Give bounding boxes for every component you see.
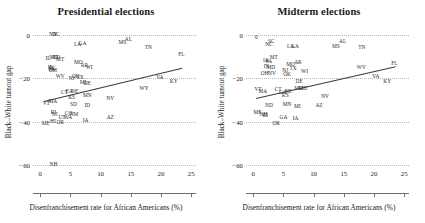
data-point-label: KY — [170, 79, 178, 84]
data-point-label: VA — [372, 74, 379, 79]
plot-area: 0−20−40−60NYDCLAGAALMSTNFLILMDNDMTMOARWI… — [33, 28, 196, 176]
data-point-label: WI — [86, 65, 93, 70]
data-point-label: MS — [332, 44, 340, 49]
data-point-label: WY — [140, 86, 149, 91]
data-point-label: IA — [293, 116, 299, 121]
data-point-label: TN — [145, 46, 152, 51]
x-axis-label: Disenfranchisement rate for African Amer… — [213, 203, 425, 212]
data-point-label: HI — [50, 120, 56, 125]
x-axis-ticks: 0510152025 — [33, 182, 196, 192]
data-point-label: NV — [321, 94, 329, 99]
data-point-label: DE — [296, 79, 303, 84]
data-point-label: NC — [265, 43, 273, 48]
x-axis-label: Disenfranchisement rate for African Amer… — [0, 203, 212, 212]
data-point-label: NV — [106, 96, 114, 101]
y-tick-label: −40 — [232, 118, 243, 125]
data-point-label: IN — [264, 64, 270, 69]
x-axis-ticks: 0510152025 — [246, 182, 409, 192]
data-point-label: DC — [52, 32, 60, 37]
data-point-label: MN — [283, 102, 292, 107]
data-point-label: KS — [282, 93, 289, 98]
x-tick-label: 25 — [401, 170, 408, 177]
data-point-label: AZ — [315, 104, 322, 109]
data-point-label: IA — [83, 118, 89, 123]
x-tick-mark — [344, 194, 345, 197]
x-tick-label: 5 — [282, 170, 285, 177]
data-point-label: GA — [291, 44, 299, 49]
data-point-label: ME — [42, 122, 50, 127]
data-point-label: MN — [83, 94, 92, 99]
y-tick-label: −60 — [19, 162, 30, 169]
x-tick-mark — [404, 194, 405, 197]
data-point-label: KS — [68, 95, 75, 100]
data-point-label: FL — [178, 53, 184, 58]
y-axis-label: Black–White turnout gap — [4, 28, 15, 176]
figure-root: Presidential elections Black–White turno… — [0, 0, 425, 223]
data-point-label: ND — [265, 103, 273, 108]
data-point-label: MI — [294, 104, 301, 109]
y-tick-label: −20 — [232, 75, 243, 82]
data-point-label: VA — [156, 76, 163, 81]
data-point-label: OR — [56, 121, 64, 126]
data-point-label: OK — [283, 72, 291, 77]
x-axis-line — [33, 193, 196, 194]
data-point-label: MD — [298, 86, 307, 91]
data-point-label: FL — [391, 61, 397, 66]
gridline-y — [246, 122, 409, 123]
panel-midterm: Midterm elections Black–White turnout ga… — [213, 0, 425, 223]
y-axis-label-text: Black–White turnout gap — [6, 66, 14, 139]
x-tick-mark — [101, 194, 102, 197]
data-point-label: NV — [268, 71, 276, 76]
y-tick-label: −20 — [19, 75, 30, 82]
data-point-label: WA — [64, 115, 72, 120]
x-axis-line — [246, 193, 409, 194]
x-tick-label: 0 — [252, 170, 255, 177]
data-point-label: SD — [70, 102, 77, 107]
y-tick-label: −60 — [232, 162, 243, 169]
gridline-y — [246, 35, 409, 36]
data-point-label: ID — [84, 103, 90, 108]
panel-title: Presidential elections — [0, 6, 212, 17]
x-tick-mark — [374, 194, 375, 197]
panel-title: Midterm elections — [213, 6, 425, 17]
data-point-label: WI — [301, 69, 308, 74]
data-point-label: RI — [263, 113, 268, 118]
x-tick-label: 25 — [188, 170, 195, 177]
y-axis-label: Black–White turnout gap — [217, 28, 228, 176]
x-tick-label: 20 — [371, 170, 378, 177]
data-point-label: WV — [56, 75, 65, 80]
data-point-label: NH — [50, 162, 58, 167]
y-axis-label-text: Black–White turnout gap — [219, 66, 227, 139]
data-point-label: TN — [358, 46, 365, 51]
data-point-label: 0 — [255, 35, 258, 40]
data-point-label: MS — [118, 41, 126, 46]
data-point-label: SC — [49, 67, 56, 72]
x-tick-mark — [314, 194, 315, 197]
data-point-label: WV — [357, 65, 366, 70]
data-point-label: MA — [259, 90, 268, 95]
data-point-label: NJ — [52, 113, 58, 118]
data-point-label: AZ — [107, 115, 114, 120]
data-point-label: AL — [339, 40, 346, 45]
x-tick-mark — [253, 194, 254, 197]
x-tick-label: 15 — [340, 170, 347, 177]
data-point-label: VT — [43, 101, 50, 106]
data-point-label: DE — [84, 81, 91, 86]
x-tick-mark — [161, 194, 162, 197]
x-tick-mark — [40, 194, 41, 197]
data-point-label: GA — [79, 41, 87, 46]
x-tick-label: 5 — [69, 170, 72, 177]
x-tick-mark — [70, 194, 71, 197]
data-point-label: MA — [49, 99, 58, 104]
x-tick-label: 10 — [310, 170, 317, 177]
y-tick-label: 0 — [27, 31, 30, 38]
data-point-label: GA — [280, 115, 288, 120]
data-point-label: OR — [272, 121, 280, 126]
plot-area: 0−20−40−600SCNCLAGAALMSTNMTIAPAMOARMDINF… — [246, 28, 409, 176]
data-point-label: KY — [383, 79, 391, 84]
gridline-y — [246, 165, 409, 166]
y-tick-label: 0 — [240, 31, 243, 38]
x-tick-label: 10 — [97, 170, 104, 177]
x-tick-label: 15 — [127, 170, 134, 177]
x-tick-label: 0 — [39, 170, 42, 177]
